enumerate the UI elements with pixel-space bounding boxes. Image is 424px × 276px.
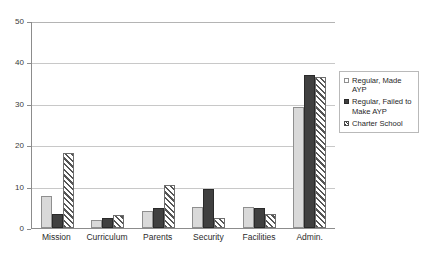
legend-swatch-icon (344, 78, 349, 83)
legend-item-label: Regular, Failed to Make AYP (352, 97, 415, 115)
bar-group (83, 22, 134, 228)
bar (63, 153, 74, 228)
x-axis-tick-label: Admin. (284, 232, 335, 250)
legend-item-label: Regular, Made AYP (352, 76, 415, 94)
legend-item[interactable]: Regular, Made AYP (344, 76, 415, 94)
y-axis-tick-label: 40 (0, 59, 24, 67)
y-axis-tick-label: 0 (0, 225, 24, 233)
bar (192, 207, 203, 228)
y-axis-tick-label: 20 (0, 142, 24, 150)
bar (91, 220, 102, 228)
legend-swatch-icon (344, 121, 349, 126)
plot-area (31, 22, 335, 229)
y-axis-tick-label: 10 (0, 184, 24, 192)
x-axis-tick-label: Security (183, 232, 234, 250)
x-axis-tick-label: Mission (31, 232, 82, 250)
x-axis-tick-label: Parents (132, 232, 183, 250)
bar (153, 208, 164, 228)
bar-group (133, 22, 184, 228)
bar (164, 185, 175, 228)
bar (304, 75, 315, 228)
bar (52, 214, 63, 228)
bar-group (285, 22, 336, 228)
legend-item[interactable]: Charter School (344, 119, 415, 128)
bar (41, 196, 52, 228)
bar (265, 214, 276, 228)
bar (214, 218, 225, 228)
chart-legend: Regular, Made AYPRegular, Failed to Make… (339, 71, 419, 133)
bar-group (32, 22, 83, 228)
x-axis-labels: MissionCurriculumParentsSecurityFaciliti… (31, 232, 335, 250)
bar (243, 207, 254, 228)
bar (102, 218, 113, 228)
bar (203, 189, 214, 228)
x-axis-tick-label: Curriculum (82, 232, 133, 250)
x-axis-tick-label: Facilities (234, 232, 285, 250)
legend-swatch-icon (344, 99, 349, 104)
y-axis-tick-label: 50 (0, 18, 24, 26)
y-axis-tick-label: 30 (0, 101, 24, 109)
bar-group (234, 22, 285, 228)
bar (315, 77, 326, 228)
bar-groups (32, 22, 335, 228)
bar (293, 107, 304, 228)
bar-chart: 01020304050 MissionCurriculumParentsSecu… (0, 0, 424, 276)
bar (113, 215, 124, 228)
legend-item-label: Charter School (352, 119, 403, 128)
bar (142, 211, 153, 228)
bar (254, 208, 265, 228)
y-axis-tick-mark (27, 229, 31, 230)
legend-item[interactable]: Regular, Failed to Make AYP (344, 97, 415, 115)
bar-group (184, 22, 235, 228)
